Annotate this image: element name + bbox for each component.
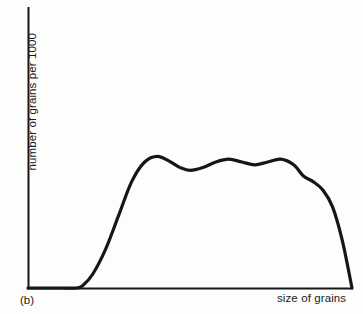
panel-caption: (b) <box>20 295 34 307</box>
x-axis-label: size of grains <box>277 293 346 305</box>
chart-figure: number of grains per 1000 size of grains… <box>0 0 363 314</box>
chart-plot-area <box>0 0 363 314</box>
y-axis-label: number of grains per 1000 <box>27 17 39 187</box>
distribution-curve <box>28 156 352 288</box>
